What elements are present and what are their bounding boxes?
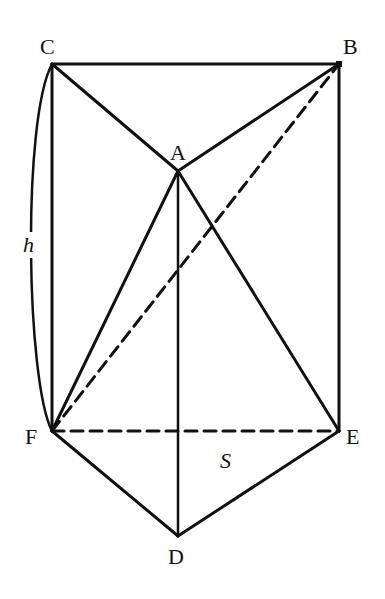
edge-AE (178, 171, 339, 431)
edge-ED (178, 431, 339, 536)
edge-BA (178, 64, 339, 171)
vertex-label-F: F (25, 424, 37, 449)
vertex-label-B: B (343, 34, 358, 59)
edge-FD (52, 431, 178, 536)
height-label: h (23, 232, 34, 257)
vertex-label-A: A (170, 140, 186, 165)
vertex-label-C: C (40, 34, 55, 59)
prism-diagram: C B A F E D h S (0, 0, 385, 599)
vertex-label-D: D (168, 544, 184, 569)
edge-AF (52, 171, 178, 431)
base-area-label: S (220, 448, 231, 473)
edge-CA (52, 64, 178, 171)
edge-FB-hidden (52, 64, 339, 431)
vertex-label-E: E (346, 424, 359, 449)
vertex-B-dot (336, 61, 342, 67)
